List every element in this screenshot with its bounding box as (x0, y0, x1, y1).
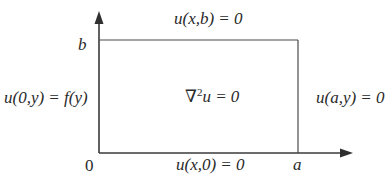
origin-label: 0 (85, 157, 94, 174)
nabla-operator: ∇ (185, 87, 197, 106)
right-boundary-condition: u(a,y) = 0 (316, 89, 385, 106)
y-axis-arrowhead-icon (95, 11, 104, 24)
x-axis-arrowhead-icon (340, 149, 353, 158)
equation-rest: u = 0 (202, 87, 239, 106)
top-boundary-condition: u(x,b) = 0 (174, 10, 243, 27)
x-end-label: a (293, 156, 302, 173)
y-end-label: b (78, 36, 87, 53)
left-boundary-condition: u(0,y) = f(y) (4, 89, 88, 106)
bottom-boundary-condition: u(x,0) = 0 (176, 156, 245, 173)
diagram-canvas: b 0 a u(x,b) = 0 u(0,y) = f(y) u(a,y) = … (0, 0, 392, 179)
laplace-equation: ∇2u = 0 (185, 88, 239, 105)
